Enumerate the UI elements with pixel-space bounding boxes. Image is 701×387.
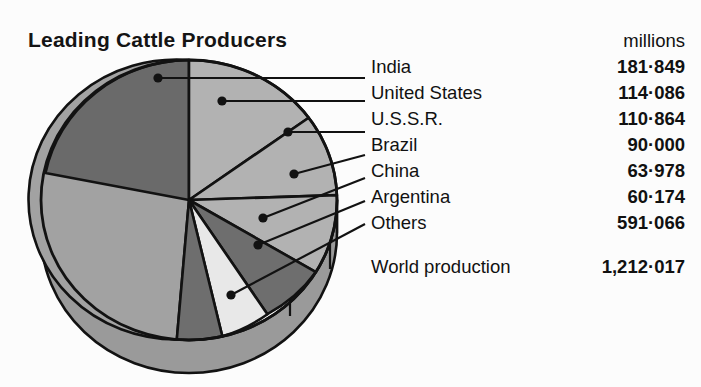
pie-chart-page: Leading Cattle Producers xyxy=(0,0,701,387)
leader-dot-others xyxy=(226,290,235,299)
world-production-value: 1,212·017 xyxy=(602,256,685,278)
legend-header-row: millions xyxy=(371,30,691,56)
legend-row-united-states: United States 114·086 xyxy=(371,82,691,108)
legend-value-argentina: 60·174 xyxy=(627,186,685,208)
legend-label-brazil: Brazil xyxy=(371,134,417,156)
legend-row-ussr: U.S.S.R. 110·864 xyxy=(371,108,691,134)
legend-row-india: India 181·849 xyxy=(371,56,691,82)
leader-dot-ussr xyxy=(283,127,292,136)
legend-value-ussr: 110·864 xyxy=(618,108,685,130)
world-production-label: World production xyxy=(371,256,511,278)
legend-row-brazil: Brazil 90·000 xyxy=(371,134,691,160)
legend-value-india: 181·849 xyxy=(617,56,685,78)
legend-label-united-states: United States xyxy=(371,82,482,104)
legend-value-china: 63·978 xyxy=(627,160,685,182)
legend-row-china: China 63·978 xyxy=(371,160,691,186)
legend-value-brazil: 90·000 xyxy=(627,134,685,156)
leader-dot-united-states xyxy=(217,96,226,105)
legend-label-ussr: U.S.S.R. xyxy=(371,108,443,130)
legend-label-others: Others xyxy=(371,212,427,234)
legend-value-united-states: 114·086 xyxy=(618,82,685,104)
leader-dot-china xyxy=(258,213,267,222)
legend-row-argentina: Argentina 60·174 xyxy=(371,186,691,212)
leader-dot-india xyxy=(153,73,162,82)
leader-dot-brazil xyxy=(289,169,298,178)
legend-value-others: 591·066 xyxy=(617,212,685,234)
legend-row-others: Others 591·066 xyxy=(371,212,691,238)
legend-row-world-production: World production 1,212·017 xyxy=(371,256,691,282)
legend-label-china: China xyxy=(371,160,419,182)
units-header: millions xyxy=(623,30,685,52)
legend-label-argentina: Argentina xyxy=(371,186,450,208)
leader-dot-argentina xyxy=(253,240,262,249)
legend-label-india: India xyxy=(371,56,411,78)
